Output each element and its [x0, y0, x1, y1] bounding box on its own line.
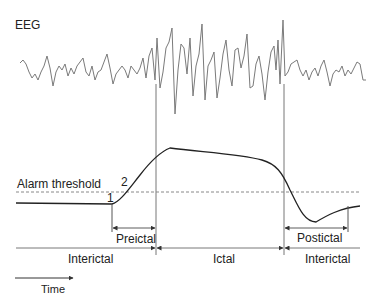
- seizure-phase-diagram: EEG Alarm threshold 1 2 Preictal Postict…: [0, 0, 374, 305]
- alarm-threshold-label: Alarm threshold: [17, 178, 101, 190]
- eeg-trace: [20, 20, 366, 114]
- marker-1: 1: [107, 192, 114, 204]
- eeg-label: EEG: [15, 19, 40, 31]
- ictal-label: Ictal: [213, 253, 235, 265]
- time-axis-label: Time: [41, 284, 65, 295]
- preictal-label: Preictal: [116, 233, 156, 245]
- postictal-label: Postictal: [297, 232, 342, 244]
- interictal-left-label: Interictal: [68, 253, 113, 265]
- marker-2: 2: [121, 176, 128, 188]
- interictal-right-label: Interictal: [305, 253, 350, 265]
